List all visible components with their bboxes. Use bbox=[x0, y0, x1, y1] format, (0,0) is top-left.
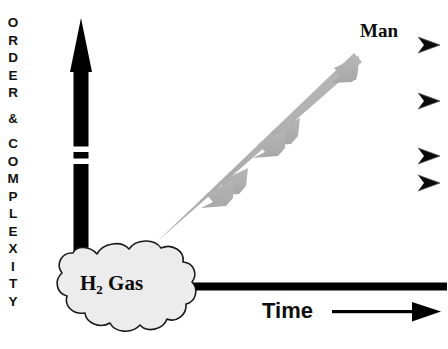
axis-letter: & bbox=[8, 110, 17, 128]
cloud-label-subscript: 2 bbox=[96, 282, 103, 297]
time-arrow bbox=[332, 302, 441, 322]
cloud-label-element: H bbox=[80, 271, 96, 295]
right-marker-2 bbox=[418, 93, 440, 109]
axis-letter: C bbox=[8, 135, 18, 153]
axis-letter: O bbox=[8, 153, 19, 171]
right-marker-3 bbox=[418, 148, 440, 164]
axis-letter: E bbox=[8, 223, 17, 241]
man-label: Man bbox=[360, 20, 398, 42]
diagram-canvas: O R D E R & C O M P L E X I T Y Man Time… bbox=[0, 0, 448, 349]
time-axis-label: Time bbox=[262, 298, 313, 324]
axis-letter: D bbox=[8, 49, 18, 67]
cloud-label: H2 Gas bbox=[80, 271, 143, 298]
vertical-axis-arrow bbox=[70, 18, 92, 266]
axis-letter: E bbox=[8, 67, 17, 85]
axis-letter: M bbox=[7, 170, 18, 188]
diagram-vector-layer bbox=[0, 0, 448, 349]
axis-letter: R bbox=[8, 32, 18, 50]
cloud-label-tail: Gas bbox=[108, 271, 143, 295]
axis-letter: P bbox=[8, 188, 17, 206]
axis-letter: I bbox=[11, 258, 15, 276]
right-marker-1 bbox=[418, 37, 440, 53]
evolution-arrow bbox=[143, 53, 362, 255]
axis-letter: O bbox=[8, 14, 19, 32]
axis-letter: X bbox=[8, 240, 17, 258]
right-marker-4 bbox=[418, 175, 440, 191]
axis-letter: T bbox=[9, 275, 17, 293]
vertical-axis-label: O R D E R & C O M P L E X I T Y bbox=[0, 14, 26, 310]
axis-letter: L bbox=[9, 205, 17, 223]
axis-letter: Y bbox=[8, 293, 17, 311]
axis-letter: R bbox=[8, 84, 18, 102]
